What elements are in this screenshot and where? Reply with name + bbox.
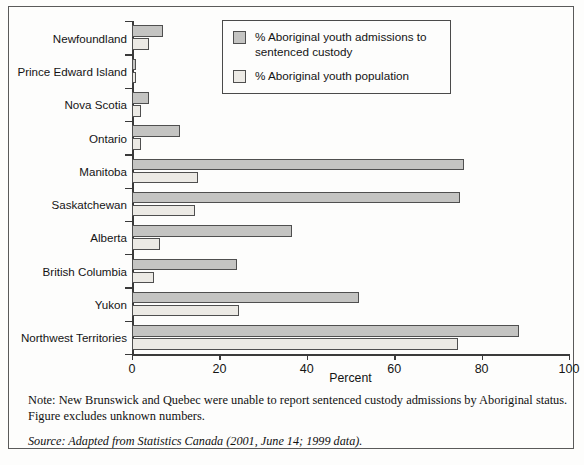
category-label-northwest-territories: Northwest Territories [21,331,127,344]
bar-admissions [132,59,136,71]
x-tick [132,354,133,360]
x-tick [569,354,570,360]
category-tick [125,287,132,288]
category-tick [125,321,132,322]
x-tick [307,354,308,360]
figure-frame: NewfoundlandPrince Edward IslandNova Sco… [8,6,574,449]
category-tick [125,54,132,55]
category-label-saskatchewan: Saskatchewan [52,198,127,211]
bar-admissions [132,159,464,171]
bar-population [132,105,141,117]
category-tick [125,121,132,122]
bar-population [132,205,195,217]
category-label-nova-scotia: Nova Scotia [64,98,127,111]
bar-population [132,272,154,284]
legend-item-admissions: % Aboriginal youth admissions to sentenc… [233,30,440,60]
category-label-british-columbia: British Columbia [43,264,127,277]
figure-page: NewfoundlandPrince Edward IslandNova Sco… [0,0,584,465]
bar-population [132,138,141,150]
category-label-alberta: Alberta [90,231,127,244]
category-label-yukon: Yukon [95,298,127,311]
bar-admissions [132,259,237,271]
chart-legend: % Aboriginal youth admissions to sentenc… [222,20,451,94]
bar-admissions [132,292,359,304]
category-label-prince-edward-island: Prince Edward Island [17,64,127,77]
legend-label-population: % Aboriginal youth population [255,69,409,84]
legend-label-admissions: % Aboriginal youth admissions to sentenc… [255,30,440,60]
legend-item-population: % Aboriginal youth population [233,69,440,84]
category-tick [125,188,132,189]
bar-population [132,72,136,84]
legend-swatch-population-icon [233,70,246,83]
caption-sliver [8,457,574,465]
x-axis-line [132,354,569,356]
bar-population [132,338,458,350]
category-tick [125,154,132,155]
bar-population [132,305,239,317]
category-tick [125,354,132,355]
bar-admissions [132,225,292,237]
x-axis-title: Percent [132,371,569,385]
figure-note: Note: New Brunswick and Quebec were unab… [28,392,574,425]
x-tick [394,354,395,360]
bar-admissions [132,325,519,337]
legend-swatch-admissions-icon [233,31,246,44]
footer-block: Note: New Brunswick and Quebec were unab… [28,392,574,449]
category-tick [125,221,132,222]
bar-admissions [132,125,180,137]
category-label-newfoundland: Newfoundland [53,31,127,44]
bar-population [132,172,198,184]
x-tick [219,354,220,360]
bar-admissions [132,25,163,37]
bar-admissions [132,192,460,204]
category-tick [125,88,132,89]
category-tick [125,21,132,22]
figure-source: Source: Adapted from Statistics Canada (… [28,434,574,449]
category-tick [125,254,132,255]
category-label-column: NewfoundlandPrince Edward IslandNova Sco… [9,21,127,354]
category-label-ontario: Ontario [89,131,127,144]
bar-admissions [132,92,149,104]
category-label-manitoba: Manitoba [79,164,127,177]
bar-population [132,238,160,250]
bar-population [132,38,149,50]
x-tick [482,354,483,360]
